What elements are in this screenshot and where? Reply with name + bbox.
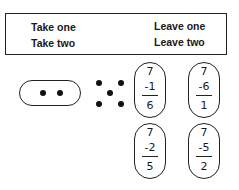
fraction-line [142, 95, 158, 96]
dot [118, 101, 124, 107]
subtrahend: -2 [135, 142, 165, 154]
take-one-label: Take one [31, 21, 76, 33]
minuend: 7 [189, 127, 219, 139]
dot [107, 90, 113, 96]
dot [96, 101, 102, 107]
subtrahend: -5 [189, 142, 219, 154]
leave-one-label: Leave one [154, 20, 205, 32]
minuend: 7 [135, 127, 165, 139]
instruction-box: Take one Take two Leave one Leave two [5, 13, 227, 55]
fraction-line [196, 95, 212, 96]
result: 6 [135, 100, 165, 112]
subtraction-card-3: 7 -2 5 [134, 123, 166, 179]
subtrahend: -1 [135, 81, 165, 93]
leave-two-label: Leave two [154, 36, 205, 48]
dot [57, 90, 63, 96]
take-two-label: Take two [31, 37, 75, 49]
subtrahend: -6 [189, 81, 219, 93]
subtraction-card-4: 7 -5 2 [188, 123, 220, 179]
dot [96, 80, 102, 86]
dot [40, 90, 46, 96]
subtraction-card-2: 7 -6 1 [188, 62, 220, 118]
fraction-line [196, 156, 212, 157]
two-dot-oval [19, 80, 81, 106]
result: 2 [189, 161, 219, 173]
result: 5 [135, 161, 165, 173]
dot [118, 80, 124, 86]
minuend: 7 [135, 66, 165, 78]
result: 1 [189, 100, 219, 112]
subtraction-card-1: 7 -1 6 [134, 62, 166, 118]
fraction-line [142, 156, 158, 157]
minuend: 7 [189, 66, 219, 78]
